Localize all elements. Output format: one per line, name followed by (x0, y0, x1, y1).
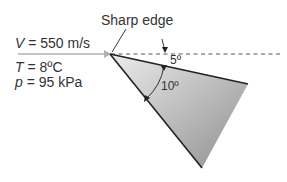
wedge-angle-label: 10º (161, 79, 179, 93)
flow-arrow-head-icon (104, 50, 111, 58)
sharp-edge-label: Sharp edge (101, 12, 173, 28)
pressure-symbol: p (15, 74, 23, 90)
temperature-symbol: T (15, 59, 24, 75)
deflection-angle-label: 5º (170, 53, 181, 67)
temperature-label: T = 8ºC (15, 59, 63, 75)
pressure-label: p = 95 kPa (15, 74, 82, 90)
sharp-edge-leader-line (112, 29, 126, 52)
pressure-value: = 95 kPa (23, 74, 83, 90)
velocity-label: V = 550 m/s (15, 35, 90, 51)
velocity-value: = 550 m/s (24, 35, 90, 51)
temperature-value: = 8ºC (24, 59, 63, 75)
deflection-arrow-icon (162, 47, 168, 53)
velocity-symbol: V (15, 35, 24, 51)
wedge-shape (110, 54, 248, 168)
